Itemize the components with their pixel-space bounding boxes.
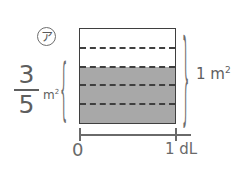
left-brace: { [60,56,67,123]
right-quantity-value: 1 [196,65,206,83]
band-row [80,29,175,48]
circled-marker-icon: ア [37,27,56,46]
left-quantity-label: 3 5 m2 [14,62,59,118]
figure-canvas: ア 3 5 m2 { } 1 m2 0 1 dL [0,0,237,176]
band-row [80,85,175,104]
left-unit-base: m [43,88,55,102]
fraction-numerator: 3 [16,62,38,89]
x-axis-label-one: 1 dL [165,142,197,157]
x-axis-label-zero: 0 [72,141,83,159]
fraction-denominator: 5 [16,91,38,118]
area-model-square [79,28,176,124]
right-unit-exponent: 2 [225,65,231,75]
band-row [80,67,175,86]
left-unit: m2 [43,88,59,102]
fraction: 3 5 [14,62,39,118]
band-row [80,48,175,67]
right-unit-base: m [210,65,225,83]
band-row [80,104,175,123]
left-unit-exponent: 2 [55,88,59,96]
right-quantity-label: 1 m2 [196,66,231,82]
right-brace: } [182,27,189,128]
